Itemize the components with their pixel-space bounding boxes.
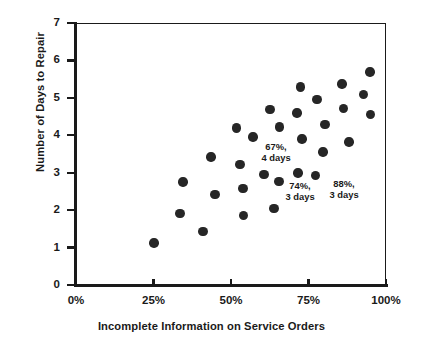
y-tick-mark <box>67 134 75 136</box>
data-point <box>178 177 187 186</box>
data-point <box>296 82 305 91</box>
data-point <box>339 104 348 113</box>
data-point <box>198 227 207 236</box>
y-tick-mark <box>67 59 75 61</box>
y-tick-label: 6 <box>8 54 60 66</box>
data-point <box>269 204 278 213</box>
x-tick-mark <box>152 279 154 287</box>
x-tick-label: 75% <box>279 295 339 307</box>
data-point <box>210 190 219 199</box>
data-point <box>259 170 268 179</box>
x-tick-label: 0% <box>46 295 106 307</box>
y-tick-label: 0 <box>8 279 60 291</box>
data-annotation: 88%, 3 days <box>314 179 374 200</box>
data-point <box>235 160 244 169</box>
data-point <box>275 122 284 131</box>
y-tick-mark <box>67 209 75 211</box>
scatter-chart: Number of Days to Repair 01234567 0%25%5… <box>0 0 423 360</box>
data-point <box>293 168 302 177</box>
data-point <box>359 90 368 99</box>
data-point <box>265 105 274 114</box>
data-point <box>232 123 241 132</box>
data-point <box>239 211 248 220</box>
data-point <box>248 132 257 141</box>
y-tick-label: 1 <box>8 242 60 254</box>
data-annotation: 67%, 4 days <box>246 142 306 163</box>
data-point <box>320 120 329 129</box>
data-point <box>175 209 184 218</box>
data-point <box>337 79 346 88</box>
data-point <box>312 95 321 104</box>
plot-area <box>76 23 386 285</box>
y-tick-label: 4 <box>8 129 60 141</box>
data-point <box>344 137 353 146</box>
y-tick-label: 5 <box>8 92 60 104</box>
y-tick-mark <box>67 97 75 99</box>
data-point <box>366 110 375 119</box>
y-tick-label: 2 <box>8 204 60 216</box>
x-tick-label: 100% <box>356 295 416 307</box>
data-point <box>149 238 158 247</box>
x-tick-mark <box>230 279 232 287</box>
data-point <box>365 67 374 76</box>
y-tick-label: 3 <box>8 167 60 179</box>
data-point <box>318 147 327 156</box>
x-tick-mark <box>385 279 387 287</box>
x-tick-mark <box>75 279 77 287</box>
x-tick-label: 50% <box>201 295 261 307</box>
x-axis-label: Incomplete Information on Service Orders <box>0 320 423 332</box>
data-point <box>206 152 215 161</box>
data-point <box>292 108 301 117</box>
x-tick-label: 25% <box>124 295 184 307</box>
y-tick-mark <box>67 284 75 286</box>
data-point <box>238 184 247 193</box>
y-tick-mark <box>67 246 75 248</box>
y-tick-mark <box>67 172 75 174</box>
y-tick-label: 7 <box>8 17 60 29</box>
y-axis-label: Number of Days to Repair <box>34 0 46 212</box>
y-tick-mark <box>67 22 75 24</box>
x-tick-mark <box>307 279 309 287</box>
